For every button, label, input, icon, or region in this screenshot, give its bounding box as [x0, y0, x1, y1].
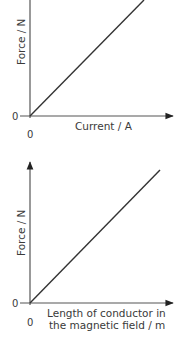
chart-force-vs-current: 0 0 Current / A Force / N [12, 0, 173, 140]
data-line [30, 170, 160, 303]
y-origin-label: 0 [12, 111, 18, 122]
x-origin-label: 0 [27, 317, 33, 328]
y-axis-label: Force / N [15, 210, 27, 256]
charts-canvas: 0 0 Current / A Force / N 0 0 Length of … [0, 0, 184, 353]
chart-force-vs-length: 0 0 Length of conductor in the magnetic … [12, 162, 173, 331]
x-axis-label-line2: the magnetic field / m [49, 319, 165, 331]
x-origin-label: 0 [27, 129, 33, 140]
y-origin-label: 0 [12, 298, 18, 309]
data-line [30, 0, 144, 116]
y-axis-label: Force / N [15, 19, 27, 65]
x-axis-label: Current / A [75, 120, 133, 132]
x-axis-label-line1: Length of conductor in [47, 307, 166, 319]
